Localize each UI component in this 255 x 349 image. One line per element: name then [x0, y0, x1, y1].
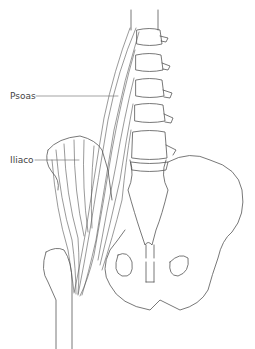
psoas-label: Psoas [10, 91, 36, 101]
pelvis [105, 155, 243, 310]
iliacus-muscle [52, 140, 94, 294]
anatomy-illustration: Psoas Iliaco [0, 0, 255, 349]
left-ilium [47, 136, 112, 200]
spine [131, 10, 176, 172]
femur [43, 248, 72, 349]
iliacus-label: Iliaco [10, 155, 34, 165]
line-art-drawing [0, 0, 255, 349]
